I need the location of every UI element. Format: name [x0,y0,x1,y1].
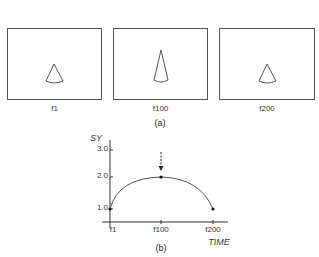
x-tick-f100: f100 [149,225,173,234]
sy-curve [110,177,213,209]
y-tick-1: 1.0 [90,203,108,212]
sy-time-chart [0,0,319,257]
x-tick-f200: f200 [201,225,225,234]
caption-b: (b) [146,243,176,253]
keyframe-point [108,207,111,210]
x-axis-title: TIME [204,237,234,247]
y-tick-3: 3.0 [90,144,108,153]
x-tick-f1: f1 [106,225,120,234]
keyframe-point [211,207,214,210]
y-tick-2: 2.0 [90,171,108,180]
keyframe-point [159,175,162,178]
y-axis-title: SY [86,133,106,143]
